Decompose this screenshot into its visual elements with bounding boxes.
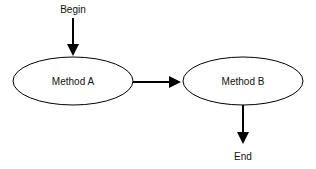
method-b-label: Method B [222, 76, 265, 87]
end-label: End [234, 151, 252, 162]
method-a-node[interactable]: Method A [13, 57, 133, 105]
flowchart-canvas: Begin Method A Method B End [0, 0, 316, 169]
begin-label: Begin [60, 4, 86, 15]
method-b-node[interactable]: Method B [183, 57, 303, 105]
method-a-label: Method A [52, 76, 95, 87]
